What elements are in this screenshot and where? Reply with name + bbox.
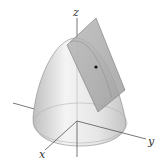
paraboloid-tangent-plane-diagram: z x y (0, 0, 162, 168)
z-axis-label: z (72, 6, 79, 19)
y-axis-label: y (147, 135, 155, 148)
x-axis-label: x (39, 148, 46, 161)
tangent-point (94, 65, 97, 68)
